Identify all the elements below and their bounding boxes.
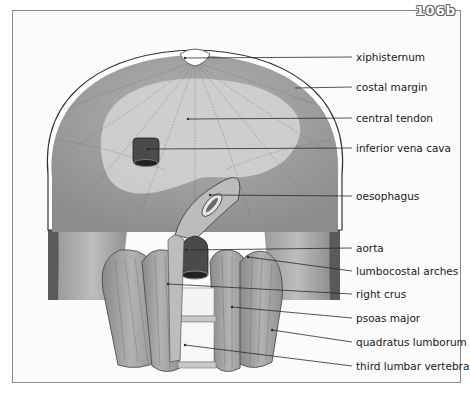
label-psoas-major: psoas major bbox=[356, 312, 420, 324]
label-lumbocostal-arches: lumbocostal arches bbox=[356, 265, 458, 277]
label-central-tendon: central tendon bbox=[356, 112, 433, 124]
label-oesophagus: oesophagus bbox=[356, 190, 419, 202]
label-quadratus-lumborum: quadratus lumborum bbox=[356, 336, 467, 348]
label-right-crus: right crus bbox=[356, 288, 406, 300]
aorta-shape bbox=[182, 236, 208, 275]
third-lumbar-vertebra-shape bbox=[180, 322, 214, 362]
label-aorta: aorta bbox=[356, 242, 384, 254]
label-third-lumbar-vertebra: third lumbar vertebra bbox=[356, 360, 469, 372]
label-inferior-vena-cava: inferior vena cava bbox=[356, 142, 451, 154]
inferior-vena-cava-shape bbox=[133, 138, 159, 167]
label-costal-margin: costal margin bbox=[356, 81, 428, 93]
label-xiphisternum: xiphisternum bbox=[356, 51, 425, 63]
